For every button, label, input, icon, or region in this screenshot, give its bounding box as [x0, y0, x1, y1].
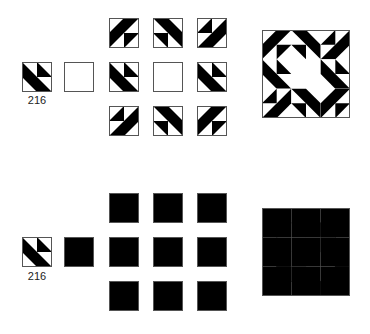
tile-number-label: 216: [21, 270, 53, 282]
center-square: [64, 237, 94, 267]
base-tile: [22, 237, 52, 267]
assembled-quilt: [262, 208, 350, 296]
grid-tile: [109, 193, 139, 223]
grid-tile: [197, 193, 227, 223]
center-square: [153, 237, 183, 267]
grid-tile: [109, 237, 139, 267]
grid-tile: [153, 193, 183, 223]
grid-tile: [197, 237, 227, 267]
grid-tile: [153, 281, 183, 311]
grid-tile: [197, 281, 227, 311]
grid-tile: [109, 281, 139, 311]
panel-bottom: 216: [0, 0, 370, 167]
